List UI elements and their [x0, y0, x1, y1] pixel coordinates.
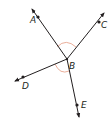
label-d: D — [22, 81, 29, 91]
label-c: C — [101, 20, 108, 30]
ray-bc — [67, 13, 104, 59]
angle-arc-dbe — [55, 64, 69, 72]
point-e — [75, 103, 78, 106]
label-a: A — [29, 15, 36, 25]
label-e: E — [81, 100, 87, 110]
angle-diagram: A C D E B — [0, 0, 108, 124]
point-b — [66, 58, 68, 60]
point-d — [21, 75, 24, 78]
label-b: B — [69, 61, 75, 71]
point-a — [36, 15, 39, 18]
angle-arc-abc — [58, 42, 77, 47]
